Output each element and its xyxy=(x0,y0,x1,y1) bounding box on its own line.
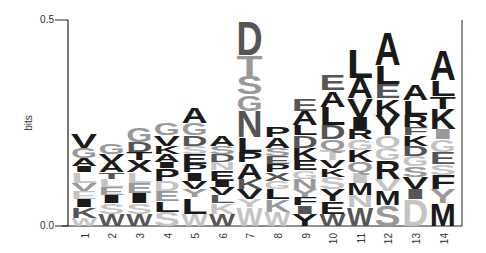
logo-letter: G xyxy=(126,123,152,145)
logo-letter: E xyxy=(292,95,318,114)
logo-letter: P xyxy=(264,124,290,140)
logo-column-6: WKLVIENDSA xyxy=(209,132,236,229)
x-tick-label: 10 xyxy=(328,233,339,245)
logo-letter: A xyxy=(430,41,456,89)
sequence-logo-chart: 0.5 0.0 bits WKIEVLIAGVWSIELTAVGWSIELXTD… xyxy=(0,0,486,253)
x-tick-label: 13 xyxy=(411,233,422,245)
logo-letter: A xyxy=(209,132,235,148)
logo-letter: V xyxy=(71,130,97,152)
x-tick-label: 3 xyxy=(135,233,146,239)
logo-column-10: WEYSKVTQDLAE xyxy=(319,69,346,229)
logo-letter: D xyxy=(237,11,263,65)
x-tick-label: 7 xyxy=(245,233,256,239)
x-tick-label: 2 xyxy=(107,233,118,239)
logo-letter: A xyxy=(402,80,428,106)
logo-column-13: DIVSGDKFRLA xyxy=(402,80,429,234)
logo-column-2: WSIELTAVG xyxy=(99,141,126,230)
x-tick-label: 5 xyxy=(190,233,201,239)
x-tick-label: 6 xyxy=(218,233,229,239)
logo-letter: A xyxy=(181,102,207,128)
x-tick-labels: 1234567891011121314 xyxy=(80,233,450,245)
logo-column-7: WYVKAPLNGSTD xyxy=(237,11,264,231)
logo-column-4: SLEDPIAKVG xyxy=(154,120,180,230)
logo-letter: A xyxy=(375,24,401,76)
y-tick-label-bottom: 0.0 xyxy=(40,220,54,231)
x-tick-label: 8 xyxy=(273,233,284,239)
x-tick-label: 9 xyxy=(301,233,312,239)
logo-column-9: YIFYNGEKDLAE xyxy=(292,95,318,229)
logo-letter: G xyxy=(99,141,125,157)
x-tick-label: 12 xyxy=(383,233,394,245)
x-tick-label: 4 xyxy=(163,233,174,239)
y-axis-label: bits xyxy=(23,115,34,131)
logo-column-12: SMVRGQYKELA xyxy=(375,24,402,232)
logo-column-8: WKLGXPESAP xyxy=(264,124,291,230)
x-tick-label: 1 xyxy=(80,233,91,239)
logo-letter: L xyxy=(347,41,373,86)
logo-column-14: MYFSEGIKTLA xyxy=(430,41,456,232)
logo-column-11: WNMIQKGRIVAL xyxy=(347,41,374,231)
x-tick-label: 14 xyxy=(439,233,450,245)
logo-letter: G xyxy=(154,120,180,139)
logo-letter: E xyxy=(319,69,345,95)
logo-column-3: WSIELXTDG xyxy=(126,123,153,229)
x-tick-label: 11 xyxy=(356,233,367,244)
y-tick-label-top: 0.5 xyxy=(40,14,54,25)
logo-column-1: WKIEVLIAGV xyxy=(71,130,98,229)
logo-column-5: WLYVIPESDGA xyxy=(181,102,208,229)
logo-columns: WKIEVLIAGVWSIELTAVGWSIELXTDGSLEDPIAKVGWL… xyxy=(71,11,456,234)
